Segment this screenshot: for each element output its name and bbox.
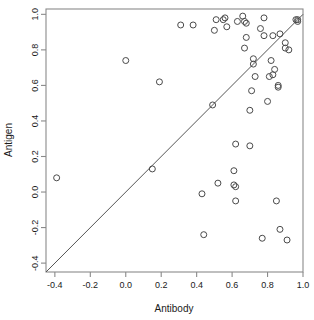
x-tick-label: 0.0 xyxy=(120,280,133,290)
data-point xyxy=(224,24,230,30)
data-point xyxy=(213,17,219,23)
y-axis-title: Antigen xyxy=(3,123,14,157)
data-point xyxy=(272,66,278,72)
identity-reference-line xyxy=(46,14,303,272)
y-axis-tick-marks xyxy=(41,14,46,263)
data-point xyxy=(231,168,237,174)
x-tick-label: 0.6 xyxy=(226,280,239,290)
x-axis-tick-marks xyxy=(55,272,303,277)
y-tick-label: 0.8 xyxy=(30,44,40,57)
data-point xyxy=(234,18,240,24)
data-point xyxy=(273,198,279,204)
data-point xyxy=(54,175,60,181)
x-axis-tick-labels: -0.4-0.20.00.20.40.60.81.0 xyxy=(47,280,309,290)
data-point xyxy=(149,166,155,172)
data-point xyxy=(233,198,239,204)
data-point xyxy=(286,47,292,53)
y-tick-label: 0.2 xyxy=(30,150,40,163)
x-tick-label: -0.4 xyxy=(47,280,63,290)
data-point xyxy=(266,74,272,80)
data-point xyxy=(156,79,162,85)
plot-frame xyxy=(46,9,303,272)
y-tick-label: 0.4 xyxy=(30,115,40,128)
data-point xyxy=(249,88,255,94)
x-axis-title: Antibody xyxy=(155,303,194,314)
y-tick-label: -0.2 xyxy=(30,220,40,236)
data-point xyxy=(261,33,267,39)
data-point xyxy=(211,27,217,33)
data-point xyxy=(123,58,129,64)
data-point xyxy=(261,15,267,21)
y-tick-label: 0.6 xyxy=(30,79,40,92)
data-point xyxy=(268,58,274,64)
data-point xyxy=(270,33,276,39)
data-point xyxy=(178,22,184,28)
x-tick-label: 1.0 xyxy=(297,280,310,290)
x-tick-label: 0.4 xyxy=(190,280,203,290)
data-point xyxy=(277,31,283,37)
x-tick-label: 0.2 xyxy=(155,280,168,290)
plot-canvas: -0.4-0.20.00.20.40.60.81.0 -0.4-0.20.00.… xyxy=(0,0,314,320)
data-point xyxy=(284,237,290,243)
data-point xyxy=(277,226,283,232)
data-point xyxy=(190,22,196,28)
data-point xyxy=(215,180,221,186)
data-point xyxy=(265,98,271,104)
data-point xyxy=(243,34,249,40)
y-tick-label: -0.4 xyxy=(30,255,40,271)
y-tick-label: 1.0 xyxy=(30,8,40,21)
data-point xyxy=(257,26,263,32)
scatter-plot-figure: -0.4-0.20.00.20.40.60.81.0 -0.4-0.20.00.… xyxy=(0,0,314,320)
y-tick-label: 0.0 xyxy=(30,186,40,199)
data-point xyxy=(259,235,265,241)
data-point xyxy=(252,74,258,80)
data-point-series xyxy=(54,13,301,243)
y-axis-tick-labels: -0.4-0.20.00.20.40.60.81.0 xyxy=(30,8,40,271)
data-point xyxy=(247,107,253,113)
data-point xyxy=(242,45,248,51)
x-tick-label: 0.8 xyxy=(261,280,274,290)
x-tick-label: -0.2 xyxy=(83,280,99,290)
data-point xyxy=(199,191,205,197)
data-point xyxy=(201,232,207,238)
data-point xyxy=(247,143,253,149)
data-point xyxy=(233,141,239,147)
